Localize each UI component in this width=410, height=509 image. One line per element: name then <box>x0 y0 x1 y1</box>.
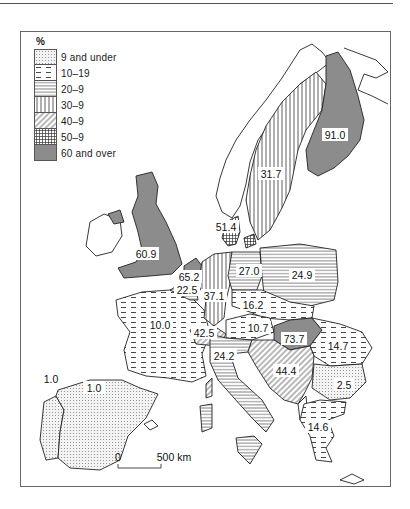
legend-item-60-and-over: 60 and over <box>34 145 117 161</box>
svg-text:60.9: 60.9 <box>136 248 157 260</box>
svg-text:0: 0 <box>115 451 121 463</box>
label-france: 10.0 <box>147 318 173 331</box>
sicily <box>236 436 262 464</box>
svg-text:10.7: 10.7 <box>248 322 269 334</box>
legend-item-40-49: 40–9 <box>34 113 117 129</box>
label-netherlands: 65.2 <box>176 270 202 283</box>
legend-item-10-19: 10–19 <box>34 65 117 81</box>
label-austria: 10.7 <box>245 321 271 334</box>
label-yugoslavia: 44.4 <box>273 364 299 377</box>
svg-text:2.5: 2.5 <box>337 379 352 391</box>
svg-text:1.0: 1.0 <box>44 373 59 385</box>
legend: % 9 and under 10–19 20–9 30–9 40–9 50–9 … <box>34 36 117 161</box>
label-belgium: 22.5 <box>174 283 200 296</box>
svg-text:14.7: 14.7 <box>328 340 349 352</box>
svg-text:51.4: 51.4 <box>216 221 237 233</box>
label-czech: 16.2 <box>240 298 266 311</box>
label-portugal: 1.0 <box>40 372 62 385</box>
svg-text:73.7: 73.7 <box>284 333 305 345</box>
legend-title: % <box>36 36 117 47</box>
label-romania: 14.7 <box>325 339 351 352</box>
solid-grey-swatch <box>34 145 57 161</box>
diagonal-lines-swatch <box>34 113 57 129</box>
great-britain <box>118 172 182 278</box>
svg-text:24.9: 24.9 <box>292 269 313 281</box>
vertical-lines-swatch <box>34 97 57 113</box>
svg-text:65.2: 65.2 <box>179 271 200 283</box>
svg-text:22.5: 22.5 <box>177 284 198 296</box>
dash-pattern-swatch <box>34 65 57 81</box>
crete <box>340 474 364 484</box>
label-switzerland: 42.5 <box>191 326 217 339</box>
legend-item-9-and-under: 9 and under <box>34 49 117 65</box>
legend-item-50-59: 50–9 <box>34 129 117 145</box>
svg-text:24.2: 24.2 <box>214 350 235 362</box>
svg-text:10.0: 10.0 <box>150 319 171 331</box>
legend-item-20-29: 20–9 <box>34 81 117 97</box>
label-egermany: 27.0 <box>236 264 262 277</box>
label-bulgaria: 2.5 <box>334 378 354 391</box>
label-finland: 91.0 <box>322 128 348 141</box>
svg-text:31.7: 31.7 <box>261 168 282 180</box>
spain <box>56 380 158 470</box>
label-wgermany: 37.1 <box>201 289 227 302</box>
scale-bar: 0 500 km <box>115 451 191 468</box>
svg-text:16.2: 16.2 <box>243 299 264 311</box>
legend-item-30-39: 30–9 <box>34 97 117 113</box>
balearic-islands <box>144 420 158 430</box>
svg-text:27.0: 27.0 <box>239 265 260 277</box>
label-denmark: 51.4 <box>213 220 239 233</box>
svg-text:14.6: 14.6 <box>308 421 329 433</box>
svg-text:500 km: 500 km <box>157 451 192 463</box>
svg-text:1.0: 1.0 <box>87 382 102 394</box>
label-sweden: 31.7 <box>258 167 284 180</box>
label-hungary: 73.7 <box>281 332 307 345</box>
svg-text:91.0: 91.0 <box>325 129 346 141</box>
crosshatch-swatch <box>34 129 57 145</box>
svg-text:42.5: 42.5 <box>194 327 215 339</box>
corsica <box>206 378 212 398</box>
label-poland: 24.9 <box>289 268 315 281</box>
label-greece: 14.6 <box>305 420 331 433</box>
horizontal-lines-swatch <box>34 81 57 97</box>
label-italy: 24.2 <box>211 349 237 362</box>
sardinia <box>200 404 212 432</box>
label-spain: 1.0 <box>83 381 105 394</box>
label-uk: 60.9 <box>133 247 159 260</box>
svg-text:37.1: 37.1 <box>204 290 225 302</box>
svg-text:44.4: 44.4 <box>276 365 297 377</box>
dots-pattern-swatch <box>34 49 57 65</box>
